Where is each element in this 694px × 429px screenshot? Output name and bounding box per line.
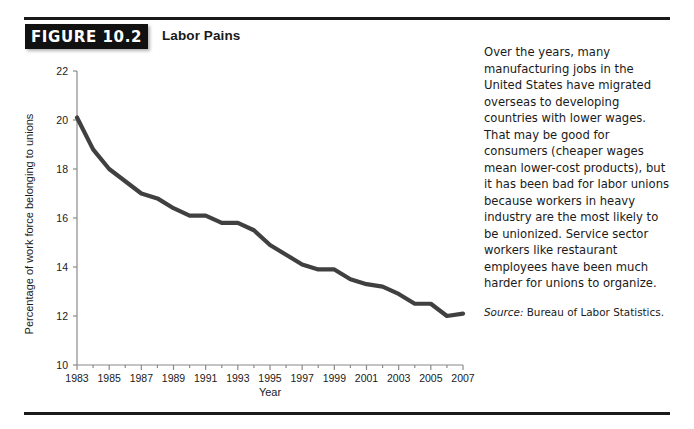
svg-text:1985: 1985: [97, 372, 121, 384]
svg-text:18: 18: [56, 163, 68, 175]
data-series-line: [77, 118, 463, 316]
x-tick-labels: 1983198519871989199119931995199719992001…: [65, 372, 475, 384]
svg-text:2007: 2007: [451, 372, 475, 384]
svg-text:1983: 1983: [65, 372, 89, 384]
chart-canvas: 10121416182022 1983198519871989199119931…: [0, 0, 478, 412]
svg-text:1989: 1989: [162, 372, 186, 384]
svg-text:1993: 1993: [226, 372, 250, 384]
y-tick-labels: 10121416182022: [56, 65, 68, 371]
svg-text:2003: 2003: [387, 372, 411, 384]
svg-text:1987: 1987: [130, 372, 154, 384]
y-axis-title: Percentage of work force belonging to un…: [23, 99, 35, 349]
svg-text:2005: 2005: [419, 372, 443, 384]
bottom-rule: [24, 412, 670, 415]
commentary-text: Over the years, many manufacturing jobs …: [484, 44, 670, 292]
svg-text:12: 12: [56, 310, 68, 322]
svg-text:16: 16: [56, 212, 68, 224]
source-value: Bureau of Labor Statistics.: [523, 306, 664, 318]
svg-text:1991: 1991: [194, 372, 218, 384]
chart-axes: [77, 71, 463, 365]
svg-text:14: 14: [56, 261, 68, 273]
x-tick-marks: [77, 365, 463, 370]
sidebar-commentary: Over the years, many manufacturing jobs …: [484, 44, 670, 318]
svg-text:10: 10: [56, 359, 68, 371]
svg-text:22: 22: [56, 65, 68, 77]
line-chart: 10121416182022 1983198519871989199119931…: [0, 0, 478, 412]
source-label: Source:: [484, 306, 523, 318]
svg-text:1995: 1995: [258, 372, 282, 384]
x-axis-title: Year: [77, 386, 463, 398]
svg-text:1999: 1999: [323, 372, 347, 384]
svg-text:1997: 1997: [290, 372, 314, 384]
source-note: Source: Bureau of Labor Statistics.: [484, 306, 670, 318]
svg-text:2001: 2001: [355, 372, 379, 384]
svg-text:20: 20: [56, 114, 68, 126]
figure-page: FIGURE 10.2 Labor Pains 10121416182022 1…: [0, 0, 694, 429]
